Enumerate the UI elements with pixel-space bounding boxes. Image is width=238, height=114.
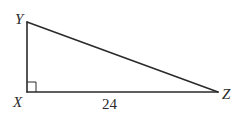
vertex-label-y: Y xyxy=(15,11,25,27)
right-triangle-diagram: Y X Z 24 xyxy=(0,0,238,114)
vertex-label-z: Z xyxy=(222,86,231,102)
right-angle-marker xyxy=(27,82,36,92)
vertex-label-x: X xyxy=(12,94,23,110)
side-length-label-xz: 24 xyxy=(102,96,118,112)
side-yz-hypotenuse xyxy=(27,22,218,92)
